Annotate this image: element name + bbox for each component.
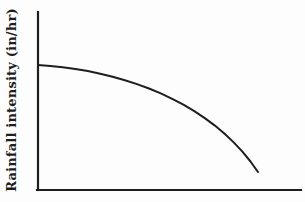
intensity-curve	[38, 65, 258, 172]
y-axis-label: Rainfall intensity (in/hr)	[4, 8, 19, 192]
plot-area	[0, 0, 305, 202]
rainfall-intensity-chart: Rainfall intensity (in/hr)	[0, 0, 305, 202]
